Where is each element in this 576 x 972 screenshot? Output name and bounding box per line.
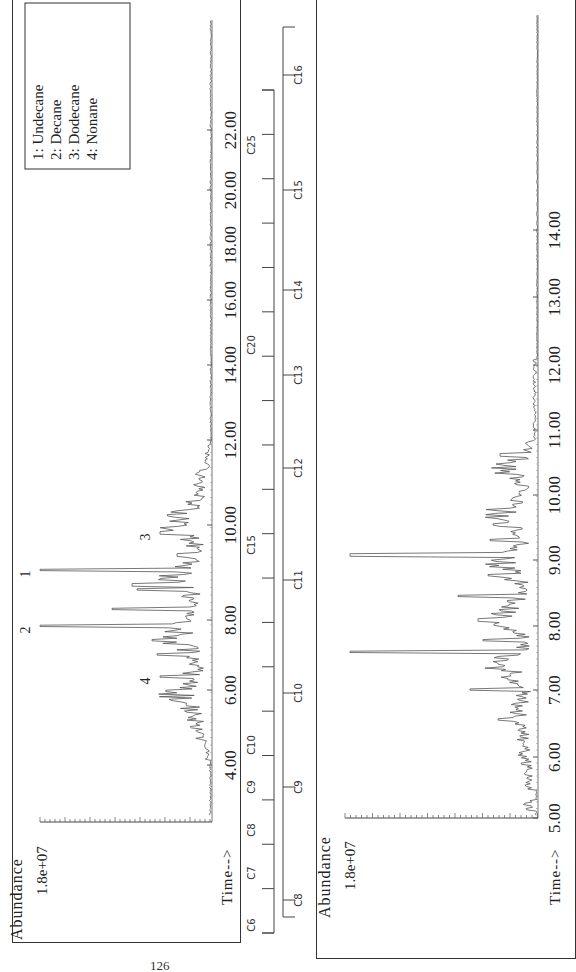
- carbon-label: C7: [246, 866, 257, 879]
- time-tick-label: 5.00: [545, 803, 564, 833]
- time-tick-label: 18.00: [221, 226, 240, 264]
- carbon-label: C16: [293, 65, 304, 85]
- time-tick-label: 6.00: [545, 742, 564, 772]
- carbon-label: C9: [246, 780, 257, 793]
- carbon-label: C12: [293, 458, 304, 478]
- legend: 1: Undecane 2: Decane 3: Dodecane 4: Non…: [25, 3, 130, 169]
- time-tick-label: 7.00: [545, 675, 564, 705]
- peak-label: 3: [138, 534, 153, 541]
- time-tick-label: 12.00: [221, 421, 240, 459]
- time-tick-label: 10.00: [221, 506, 240, 544]
- carbon-label: C15: [293, 180, 304, 200]
- time-tick-label: 13.00: [545, 278, 564, 316]
- carbon-label: C10: [246, 735, 257, 755]
- carbon-label: C10: [293, 683, 304, 703]
- carbon-ladder-1: C6C7C8C9C10C15C20C25: [246, 90, 274, 933]
- carbon-label: C9: [293, 780, 304, 793]
- time-tick-label: 8.00: [545, 611, 564, 641]
- carbon-label: C6: [246, 918, 257, 931]
- page-number: 126: [150, 958, 170, 972]
- time-tick-label: 14.00: [545, 211, 564, 249]
- time-tick-label: 10.00: [545, 476, 564, 514]
- panel-1-xlabel: Time-->: [219, 848, 235, 905]
- time-tick-label: 16.00: [221, 281, 240, 319]
- carbon-label: C13: [293, 365, 304, 385]
- legend-item-1: 1: Undecane: [30, 84, 46, 160]
- panel-2-ymax: 1.8e+07: [342, 841, 358, 890]
- peak-label: 2: [18, 627, 33, 634]
- carbon-label: C8: [246, 823, 257, 836]
- time-tick-label: 8.00: [221, 605, 240, 635]
- carbon-label: C25: [246, 135, 257, 155]
- carbon-label: C8: [293, 893, 304, 906]
- panel-1-peak-labels: 1234: [18, 534, 153, 685]
- legend-item-3: 3: Dodecane: [66, 84, 82, 160]
- time-tick-label: 20.00: [221, 171, 240, 209]
- panel-2-xlabel: Time-->: [547, 848, 563, 905]
- time-tick-label: 12.00: [545, 346, 564, 384]
- carbon-label: C11: [293, 570, 304, 590]
- peak-label: 4: [138, 678, 153, 685]
- panel-2-ylabel: Abundance: [316, 836, 333, 918]
- carbon-ladder-2: C8C9C10C11C12C13C14C15C16: [283, 27, 304, 917]
- time-tick-label: 11.00: [545, 411, 564, 449]
- time-tick-label: 6.00: [221, 675, 240, 705]
- time-tick-label: 14.00: [221, 346, 240, 384]
- time-tick-label: 22.00: [221, 111, 240, 149]
- panel-2-axes: 5.006.007.008.009.0010.0011.0012.0013.00…: [345, 15, 564, 833]
- time-tick-label: 9.00: [545, 545, 564, 575]
- panel-1-abundance-ticks: [40, 817, 210, 822]
- carbon-label: C14: [293, 280, 304, 300]
- legend-item-4: 4: Nonane: [84, 98, 100, 160]
- panel-1-ylabel: Abundance: [8, 858, 25, 940]
- legend-item-2: 2: Decane: [48, 99, 64, 160]
- carbon-label: C15: [246, 535, 257, 555]
- panel-1-ymax: 1.8e+07: [34, 846, 50, 895]
- time-tick-label: 4.00: [221, 750, 240, 780]
- peak-label: 1: [18, 571, 33, 578]
- carbon-label: C20: [246, 335, 257, 355]
- panel-2-trace: [350, 16, 538, 816]
